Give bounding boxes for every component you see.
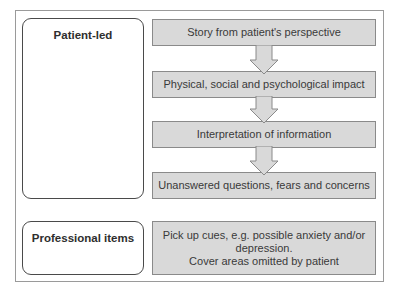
step-impact: Physical, social and psychological impac… (152, 71, 376, 98)
step-story-label: Story from patient's perspective (187, 26, 341, 39)
professional-line-3: Cover areas omitted by patient (189, 255, 339, 268)
professional-line-2: depression. (236, 242, 293, 255)
step-professional: Pick up cues, e.g. possible anxiety and/… (152, 221, 376, 275)
step-story: Story from patient's perspective (152, 19, 376, 46)
professional-line-1: Pick up cues, e.g. possible anxiety and/… (163, 229, 365, 242)
down-arrow-icon (249, 45, 279, 75)
professional-items-label: Professional items (23, 232, 143, 244)
down-arrow-icon (249, 146, 279, 176)
down-arrow-icon (249, 96, 279, 124)
professional-items-box: Professional items (22, 221, 144, 275)
patient-led-label: Patient-led (23, 29, 143, 41)
step-impact-label: Physical, social and psychological impac… (163, 78, 364, 91)
step-concerns: Unanswered questions, fears and concerns (152, 172, 376, 199)
step-concerns-label: Unanswered questions, fears and concerns (158, 179, 370, 192)
patient-led-box: Patient-led (22, 18, 144, 199)
step-interpretation: Interpretation of information (152, 121, 376, 148)
step-interpretation-label: Interpretation of information (197, 128, 332, 141)
